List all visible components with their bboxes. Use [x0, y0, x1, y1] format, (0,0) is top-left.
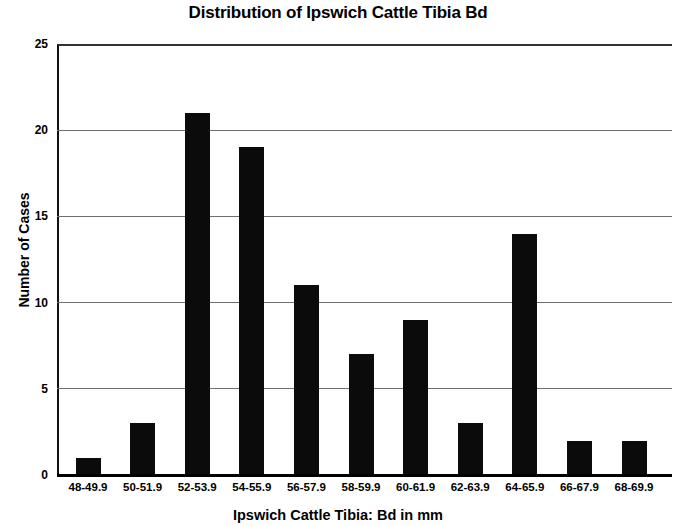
chart-title: Distribution of Ipswich Cattle Tibia Bd [0, 2, 676, 24]
bar [622, 441, 647, 475]
y-tick-label: 5 [2, 383, 48, 395]
bar [239, 147, 264, 475]
y-tick-label: 0 [2, 469, 48, 481]
x-tick-label: 68-69.9 [599, 481, 669, 494]
y-tick-label: 20 [2, 124, 48, 136]
y-tick-label: 25 [2, 38, 48, 50]
bar [76, 458, 101, 475]
bar [294, 285, 319, 475]
bar [349, 354, 374, 475]
bar [185, 113, 210, 475]
x-axis-line [57, 474, 672, 477]
bar [458, 423, 483, 475]
bars-group [57, 44, 672, 475]
bar [403, 320, 428, 475]
bar [130, 423, 155, 475]
x-axis-title: Ipswich Cattle Tibia: Bd in mm [0, 506, 676, 524]
histogram-chart: Distribution of Ipswich Cattle Tibia Bd … [0, 0, 676, 526]
bar [512, 234, 537, 475]
bar [567, 441, 592, 475]
y-axis-title: Number of Cases [16, 150, 32, 350]
